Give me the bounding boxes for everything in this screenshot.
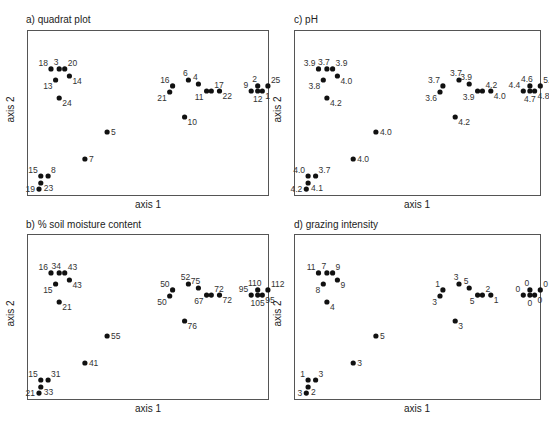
data-point xyxy=(373,333,378,338)
data-point-label: 0 xyxy=(543,279,548,289)
data-point-label: 3 xyxy=(432,297,437,307)
data-point-label: 7 xyxy=(322,261,327,271)
data-point-label: 0 xyxy=(525,278,530,288)
data-point-label: 2 xyxy=(485,284,490,294)
data-point xyxy=(321,281,326,286)
data-point xyxy=(538,287,543,292)
data-point xyxy=(456,281,461,286)
data-point-label: 3 xyxy=(357,358,362,368)
data-point-label: 0 xyxy=(538,295,543,305)
data-point xyxy=(351,360,356,365)
data-point xyxy=(532,293,537,298)
data-point-label: 0 xyxy=(516,284,521,294)
data-point xyxy=(313,377,318,382)
data-point-label: 5 xyxy=(380,331,385,341)
data-point xyxy=(335,277,340,282)
data-point xyxy=(527,287,532,292)
data-point-label: 5 xyxy=(470,296,475,306)
data-point xyxy=(440,287,445,292)
data-point xyxy=(437,293,442,298)
data-point-label: 0 xyxy=(528,298,533,308)
data-point xyxy=(304,391,309,396)
data-point xyxy=(453,318,458,323)
data-point-label: 5 xyxy=(464,276,469,286)
data-point xyxy=(527,293,532,298)
data-point xyxy=(316,270,321,275)
data-point-label: 3 xyxy=(454,272,459,282)
data-point-label: 1 xyxy=(300,369,305,379)
data-point xyxy=(467,285,472,290)
data-point-label: 4 xyxy=(330,302,335,312)
data-point-label: 1 xyxy=(494,295,499,305)
data-point-label: 9 xyxy=(340,280,345,290)
data-point-label: 1 xyxy=(435,279,440,289)
data-point xyxy=(330,270,335,275)
data-point-label: 3 xyxy=(298,388,303,398)
data-point-label: 9 xyxy=(336,262,341,272)
data-point xyxy=(475,293,480,298)
data-point xyxy=(324,270,329,275)
data-point xyxy=(480,293,485,298)
data-point xyxy=(324,299,329,304)
data-point xyxy=(488,293,493,298)
data-point-label: 3 xyxy=(319,369,324,379)
data-point-label: 2 xyxy=(311,387,316,397)
data-point-label: 8 xyxy=(316,285,321,295)
panel-d-scatter-points: 11799841335521353000001323 xyxy=(0,0,549,421)
data-point-label: 3 xyxy=(458,321,463,331)
data-point xyxy=(306,377,311,382)
data-point xyxy=(521,293,526,298)
data-point xyxy=(306,384,311,389)
data-point-label: 11 xyxy=(307,262,316,272)
